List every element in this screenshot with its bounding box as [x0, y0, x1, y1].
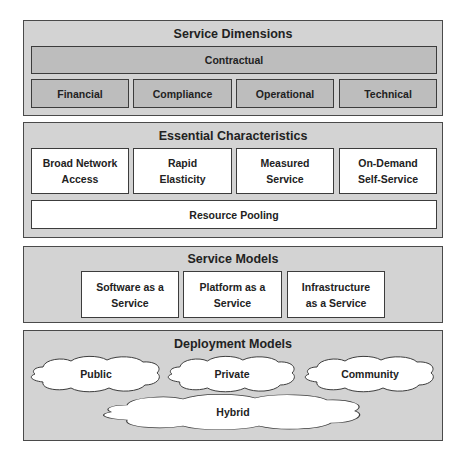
service-models-title: Service Models [24, 252, 442, 266]
broad-network-access-line2: Access [43, 171, 118, 187]
service-models-section: Service Models Software as aService Plat… [23, 246, 443, 323]
deployment-models-section: Deployment Models Public Private Communi… [23, 330, 443, 441]
paas-box: Platform as aService [183, 271, 282, 318]
financial-box: Financial [31, 79, 129, 108]
operational-box: Operational [236, 79, 334, 108]
rapid-elasticity-line1: Rapid [159, 155, 205, 171]
iaas-line1: Infrastructure [302, 279, 370, 295]
iaas-line2: as a Service [302, 295, 370, 311]
broad-network-access-box: Broad NetworkAccess [31, 148, 129, 194]
contractual-label: Contractual [205, 52, 263, 68]
private-label: Private [166, 368, 298, 380]
technical-box: Technical [339, 79, 437, 108]
operational-label: Operational [256, 86, 314, 102]
hybrid-label: Hybrid [99, 406, 367, 418]
private-cloud: Private [166, 355, 298, 393]
broad-network-access-line1: Broad Network [43, 155, 118, 171]
saas-line2: Service [96, 295, 164, 311]
essential-characteristics-section: Essential Characteristics Broad NetworkA… [23, 122, 443, 238]
community-label: Community [303, 368, 437, 380]
service-dimensions-section: Service Dimensions Contractual Financial… [23, 20, 443, 116]
measured-service-box: MeasuredService [236, 148, 334, 194]
public-label: Public [29, 368, 163, 380]
community-cloud: Community [303, 355, 437, 393]
measured-service-line2: Service [260, 171, 309, 187]
technical-label: Technical [364, 86, 412, 102]
financial-label: Financial [57, 86, 103, 102]
paas-line2: Service [200, 295, 266, 311]
on-demand-self-service-box: On-DemandSelf-Service [339, 148, 437, 194]
on-demand-self-service-line1: On-Demand [358, 155, 418, 171]
deployment-models-title: Deployment Models [24, 337, 442, 351]
compliance-label: Compliance [153, 86, 213, 102]
rapid-elasticity-line2: Elasticity [159, 171, 205, 187]
saas-box: Software as aService [81, 271, 179, 318]
service-dimensions-title: Service Dimensions [24, 27, 442, 41]
paas-line1: Platform as a [200, 279, 266, 295]
public-cloud: Public [29, 355, 163, 393]
iaas-box: Infrastructureas a Service [287, 271, 385, 318]
measured-service-line1: Measured [260, 155, 309, 171]
compliance-box: Compliance [133, 79, 232, 108]
contractual-box: Contractual [31, 46, 437, 74]
on-demand-self-service-line2: Self-Service [358, 171, 418, 187]
hybrid-cloud: Hybrid [99, 393, 367, 431]
resource-pooling-label: Resource Pooling [189, 207, 278, 223]
saas-line1: Software as a [96, 279, 164, 295]
resource-pooling-box: Resource Pooling [31, 200, 437, 229]
essential-characteristics-title: Essential Characteristics [24, 129, 442, 143]
rapid-elasticity-box: RapidElasticity [133, 148, 232, 194]
